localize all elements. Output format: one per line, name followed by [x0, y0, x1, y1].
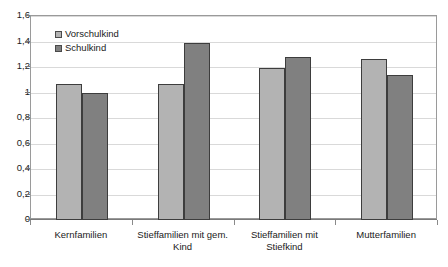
y-axis-tick-mark — [25, 168, 30, 169]
bar — [387, 75, 413, 220]
x-axis-tick-mark — [234, 220, 235, 225]
x-axis-category-label: Stieffamilien mit Stiefkind — [234, 229, 336, 253]
bar — [56, 84, 82, 220]
x-axis-tick-mark — [437, 220, 438, 225]
gridline — [31, 16, 436, 17]
bar — [285, 57, 311, 220]
bar — [158, 84, 184, 220]
chart-legend: VorschulkindSchulkind — [55, 27, 119, 55]
legend-swatch-icon — [55, 31, 62, 38]
y-axis-tick-mark — [25, 194, 30, 195]
bar — [259, 68, 285, 220]
x-axis-category-label: Kernfamilien — [30, 229, 132, 241]
x-axis-tick-mark — [132, 220, 133, 225]
bar — [184, 43, 210, 220]
y-axis-tick-mark — [25, 92, 30, 93]
y-axis-tick-mark — [25, 66, 30, 67]
x-axis-category-label: Mutterfamilien — [335, 229, 437, 241]
legend-item: Schulkind — [55, 41, 119, 55]
x-axis-tick-mark — [335, 220, 336, 225]
x-axis-category-label: Stieffamilien mit gem. Kind — [132, 229, 234, 253]
bar — [361, 59, 387, 220]
legend-label: Schulkind — [65, 43, 106, 53]
y-axis-tick-mark — [25, 143, 30, 144]
legend-swatch-icon — [55, 45, 62, 52]
legend-label: Vorschulkind — [65, 29, 119, 39]
bar — [82, 93, 108, 221]
y-axis-tick-mark — [25, 117, 30, 118]
y-axis-tick-mark — [25, 41, 30, 42]
x-axis-tick-mark — [30, 220, 31, 225]
legend-item: Vorschulkind — [55, 27, 119, 41]
y-axis-tick-mark — [25, 15, 30, 16]
bar-chart: 00,20,40,60,811,21,41,6 KernfamilienStie… — [0, 0, 448, 267]
